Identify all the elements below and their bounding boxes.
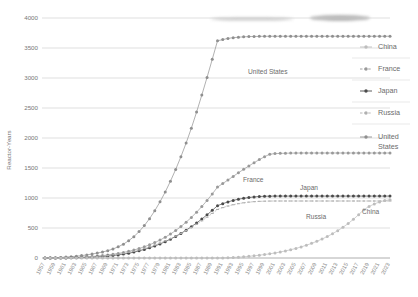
data-point: [253, 195, 256, 198]
data-point: [352, 218, 355, 221]
legend-marker-point: [364, 135, 367, 138]
gridlines: [42, 18, 390, 258]
x-tick-label: 1957: [35, 262, 46, 276]
data-point: [242, 197, 245, 200]
data-point: [305, 35, 308, 38]
data-point: [185, 221, 188, 224]
x-tick-label: 2023: [380, 262, 391, 276]
data-point: [315, 152, 318, 155]
data-point: [153, 241, 156, 244]
data-point: [101, 255, 104, 256]
data-point: [347, 195, 350, 198]
data-point: [389, 35, 392, 38]
x-tick-label: 1961: [56, 262, 67, 276]
chart-legend[interactable]: ChinaFranceJapanRussiaUnitedStates: [352, 42, 410, 151]
data-point: [373, 195, 376, 198]
data-point: [378, 152, 381, 155]
data-point: [117, 257, 120, 260]
data-point: [221, 207, 224, 208]
legend-label[interactable]: United: [378, 132, 399, 141]
x-tick-label: 1977: [139, 262, 150, 276]
x-tick-label: 2005: [286, 262, 297, 276]
x-tick-label: 1995: [233, 262, 244, 276]
data-point: [263, 195, 266, 198]
legend-marker-point: [364, 89, 367, 92]
data-point: [268, 252, 271, 255]
data-point: [310, 152, 313, 155]
data-point: [336, 229, 339, 232]
data-point: [206, 217, 209, 218]
data-point: [253, 35, 256, 38]
y-tick-label: 2000: [24, 134, 38, 141]
legend-label[interactable]: China: [378, 42, 397, 51]
data-point: [368, 195, 371, 198]
data-point: [169, 238, 172, 239]
data-point: [159, 243, 162, 244]
data-point: [117, 254, 120, 255]
legend-marker-point: [364, 67, 367, 70]
data-point: [274, 251, 277, 254]
data-point: [326, 195, 329, 198]
data-point: [341, 195, 344, 198]
data-point: [383, 199, 386, 202]
legend-label[interactable]: France: [378, 64, 400, 73]
data-point: [279, 195, 282, 198]
legend-label-continued[interactable]: States: [378, 142, 399, 151]
data-point: [185, 230, 188, 231]
plot-series-group: [44, 35, 392, 260]
data-point: [331, 232, 334, 235]
data-point: [91, 257, 94, 260]
x-tick-label: 1989: [202, 262, 213, 276]
data-point: [80, 257, 83, 260]
data-point: [336, 35, 339, 38]
data-point: [263, 155, 266, 158]
data-point: [153, 245, 156, 246]
data-point: [226, 179, 229, 182]
data-point: [263, 35, 266, 38]
data-point: [190, 216, 193, 219]
data-point: [294, 152, 297, 155]
data-point: [289, 200, 292, 201]
data-point: [347, 200, 350, 201]
data-point: [279, 251, 282, 254]
x-tick-label: 1999: [254, 262, 265, 276]
data-point: [216, 204, 219, 207]
data-point: [106, 257, 109, 260]
legend-label[interactable]: Russia: [378, 108, 400, 117]
data-point: [389, 198, 392, 201]
data-point: [216, 39, 219, 42]
data-point: [190, 257, 193, 260]
data-point: [274, 195, 277, 198]
data-point: [305, 195, 308, 198]
y-tick-label: 0: [35, 254, 39, 261]
data-point: [258, 254, 261, 257]
data-point: [305, 152, 308, 155]
data-point: [305, 200, 308, 201]
legend-marker-point: [364, 45, 367, 48]
data-point: [310, 242, 313, 245]
data-point: [190, 127, 193, 130]
data-point: [232, 175, 235, 178]
data-point: [153, 257, 156, 260]
data-point: [127, 239, 130, 242]
x-tick-label: 1997: [244, 262, 255, 276]
data-point: [159, 200, 162, 203]
data-point: [211, 257, 214, 260]
data-point: [300, 200, 303, 201]
data-point: [232, 199, 235, 202]
data-point: [143, 245, 146, 248]
legend-marker-point: [364, 111, 367, 114]
data-point: [226, 200, 229, 203]
y-tick-label: 3500: [24, 44, 38, 51]
data-point: [148, 246, 151, 247]
data-point: [59, 257, 62, 260]
inline-label-russia: Russia: [306, 213, 326, 220]
data-point: [117, 245, 120, 248]
data-point: [378, 200, 381, 203]
data-point: [378, 195, 381, 198]
data-point: [185, 142, 188, 145]
data-point: [237, 36, 240, 39]
data-point: [279, 152, 282, 155]
x-tick-label: 1979: [150, 262, 161, 276]
legend-label[interactable]: Japan: [378, 86, 398, 95]
